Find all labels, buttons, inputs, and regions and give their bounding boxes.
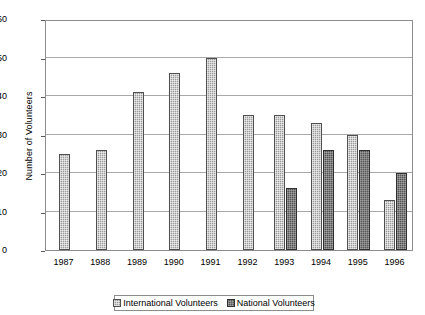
y-axis-tick-label: 10 bbox=[0, 208, 7, 217]
x-axis-tick-label: 1992 bbox=[227, 257, 267, 267]
y-axis-tick-label: 40 bbox=[0, 92, 7, 101]
legend-swatch-icon bbox=[227, 299, 235, 307]
bar bbox=[133, 92, 144, 250]
x-axis-tick-label: 1991 bbox=[191, 257, 231, 267]
bar bbox=[59, 154, 70, 250]
x-axis-tick-label: 1990 bbox=[154, 257, 194, 267]
gridline bbox=[46, 57, 412, 58]
x-axis-tick-label: 1993 bbox=[264, 257, 304, 267]
legend-label: National Volunteers bbox=[237, 298, 315, 308]
bar bbox=[359, 150, 370, 250]
y-axis-tick-label: 20 bbox=[0, 169, 7, 178]
y-axis-tick-label: 0 bbox=[0, 246, 7, 255]
x-axis-tick-label: 1994 bbox=[301, 257, 341, 267]
x-axis-tick-label: 1996 bbox=[375, 257, 415, 267]
chart-legend: International VolunteersNational Volunte… bbox=[114, 295, 314, 311]
bar bbox=[243, 115, 254, 250]
volunteers-bar-chart: Number of Volunteers 0102030405060 19871… bbox=[0, 0, 425, 315]
plot-area bbox=[45, 20, 413, 251]
bar bbox=[286, 188, 297, 250]
bar bbox=[274, 115, 285, 250]
x-axis-tick-label: 1987 bbox=[43, 257, 83, 267]
bar bbox=[206, 58, 217, 251]
x-axis-tick-label: 1989 bbox=[117, 257, 157, 267]
y-axis-title: Number of Volunteers bbox=[24, 56, 34, 216]
bar bbox=[311, 123, 322, 250]
x-axis-tick-label: 1988 bbox=[80, 257, 120, 267]
y-axis-tick-mark bbox=[41, 251, 45, 252]
y-axis-tick-label: 60 bbox=[0, 15, 7, 24]
legend-label: International Volunteers bbox=[123, 298, 218, 308]
x-axis-tick-label: 1995 bbox=[338, 257, 378, 267]
bar bbox=[396, 173, 407, 250]
y-axis-tick-label: 30 bbox=[0, 131, 7, 140]
bar bbox=[347, 135, 358, 251]
bar bbox=[96, 150, 107, 250]
gridline bbox=[46, 95, 412, 96]
y-axis-tick-label: 50 bbox=[0, 54, 7, 63]
bar bbox=[169, 73, 180, 250]
legend-swatch-icon bbox=[113, 299, 121, 307]
legend-entry: National Volunteers bbox=[227, 298, 315, 308]
bar bbox=[384, 200, 395, 250]
bar bbox=[323, 150, 334, 250]
legend-entry: International Volunteers bbox=[113, 298, 218, 308]
